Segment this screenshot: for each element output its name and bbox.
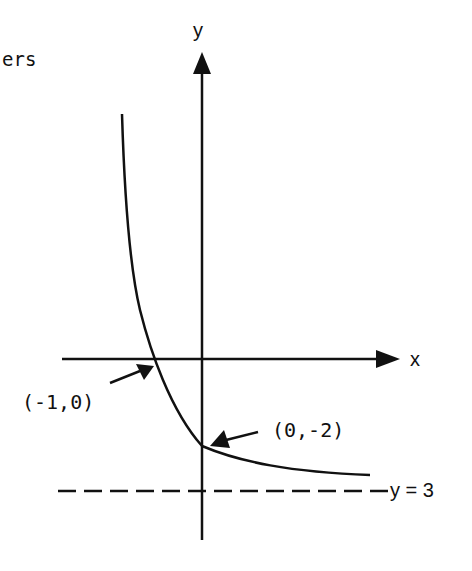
point-arrowhead-0-neg2 [210,430,230,448]
x-axis-label: x [410,349,420,369]
point-label-neg1-0: (-1,0) [22,392,94,412]
point-arrow-0-neg2 [226,432,258,440]
y-axis-arrowhead [193,52,211,74]
y-axis-label: y [193,20,203,40]
point-label-0-neg2: (0,-2) [272,420,344,440]
point-arrow-neg1-0 [110,371,140,383]
asymptote-label: y = 3 [390,480,434,500]
x-axis-arrowhead [376,350,400,368]
